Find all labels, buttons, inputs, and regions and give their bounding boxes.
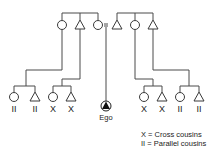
cousin-label: II	[192, 104, 206, 114]
father	[112, 20, 122, 29]
cousin-label: X	[64, 104, 78, 114]
cousin-label: II	[7, 104, 21, 114]
cousin-female-1	[10, 93, 19, 102]
cousin-label: II	[173, 104, 187, 114]
right-sibling-group	[112, 13, 158, 30]
cousin-female-4	[176, 93, 185, 102]
cousin-male-2	[66, 92, 76, 101]
left-sibling-group	[58, 13, 103, 30]
cousin-label: II	[28, 104, 42, 114]
ego-symbol	[101, 101, 111, 111]
cousin-female-2	[49, 93, 58, 102]
cousin-label: X	[46, 104, 60, 114]
cousin-male-4	[194, 92, 204, 101]
mother-sister	[58, 21, 67, 30]
ego-label: Ego	[96, 113, 116, 122]
legend-cross: X = Cross cousins	[141, 130, 202, 139]
mother-brother	[75, 20, 85, 29]
cousin-male-3	[157, 92, 167, 101]
legend-parallel: II = Parallel cousins	[141, 139, 206, 148]
cousin-label: X	[137, 104, 151, 114]
cousin-label: X	[155, 104, 169, 114]
father-sister	[131, 21, 140, 30]
cousin-male-1	[30, 92, 40, 101]
mother	[94, 21, 103, 30]
father-brother	[148, 20, 158, 29]
marriage-sign	[104, 24, 108, 26]
cousin-female-3	[140, 93, 149, 102]
